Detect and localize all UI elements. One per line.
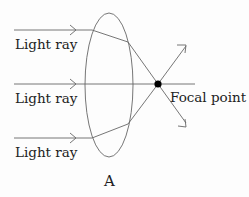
label-light-ray-bottom: Light ray [15, 144, 77, 160]
label-light-ray-middle: Light ray [15, 90, 77, 106]
convex-lens [85, 13, 133, 157]
arrowhead-outgoing-down-icon [178, 119, 186, 127]
diagram-caption: A [104, 172, 115, 190]
label-light-ray-top: Light ray [15, 36, 77, 52]
label-focal-point: Focal point [170, 89, 246, 105]
lens-diagram: Light ray Light ray Light ray Focal poin… [0, 0, 249, 197]
focal-point-dot [154, 80, 161, 87]
